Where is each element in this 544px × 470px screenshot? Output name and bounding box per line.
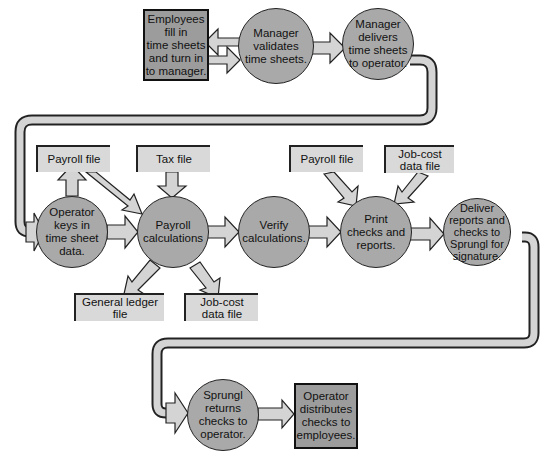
node-sprungl-returns: Sprungl returns checks to operator. [187,379,259,451]
node-payroll-calculations: Payroll calculations [137,196,209,268]
file-jobcost-bottom: Job-cost data file [184,293,258,321]
arrow-print-to-deliver [410,218,444,250]
arrow-payrollfile2-to-print [324,172,358,206]
node-manager-delivers: Manager delivers time sheets to operator… [342,8,414,80]
file-label: Payroll file [47,153,100,166]
arrow-verify-to-print [308,217,341,247]
node-label: Sprungl returns checks to operator. [199,389,248,441]
arrow-operator-to-payrollcalc [107,216,138,248]
arrow-jobcost-to-print [394,172,428,204]
arrow-employees-to-manager [205,47,240,73]
node-label: Operator distributes checks to employees… [297,390,356,442]
node-label: Verify calculations. [242,219,305,245]
file-label: Job-cost data file [398,148,441,172]
arrow-sprungl-to-distributes [258,400,294,428]
arrow-validates-to-delivers [312,33,345,63]
file-payroll-2: Payroll file [289,145,363,172]
node-label: Deliver reports and checks to Sprungl fo… [449,202,505,262]
file-payroll-1: Payroll file [36,145,110,172]
node-manager-validates: Manager validates time sheets. [238,8,314,84]
file-label: General ledger file [82,296,158,320]
file-label: Job-cost data file [200,296,243,320]
node-print-checks: Print checks and reports. [340,196,412,268]
file-tax: Tax file [136,145,210,172]
file-label: Tax file [156,153,192,166]
node-label: Employees fill in time sheets and turn i… [146,13,207,78]
arrow-calc-to-ledger [124,260,160,294]
node-label: Payroll calculations [143,219,203,245]
flowchart-diagram: .pipe-outer { fill: none; stroke: #222; … [0,0,544,470]
file-general-ledger: General ledger file [74,293,164,321]
node-label: Operator keys in time sheet data. [45,206,98,258]
node-verify-calculations: Verify calculations. [238,196,310,268]
arrow-calc-to-verify [207,217,239,247]
node-label: Print checks and reports. [347,213,405,252]
file-jobcost-top: Job-cost data file [384,145,454,173]
node-label: Manager delivers time sheets to operator… [349,18,408,70]
node-operator-keys: Operator keys in time sheet data. [36,196,108,268]
node-deliver-reports: Deliver reports and checks to Sprungl fo… [443,198,511,266]
node-employees-fill: Employees fill in time sheets and turn i… [143,9,209,81]
arrow-manager-to-employees [205,29,240,55]
arrow-taxfile-to-calc [158,172,186,198]
node-operator-distributes: Operator distributes checks to employees… [294,383,358,449]
file-label: Payroll file [300,153,353,166]
node-label: Manager validates time sheets. [245,27,307,66]
